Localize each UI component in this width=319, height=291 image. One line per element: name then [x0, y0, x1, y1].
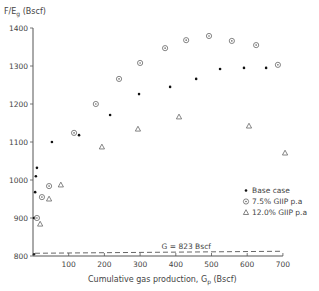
giip-12-point: [246, 123, 251, 128]
giip-7-5-point: [206, 33, 211, 38]
giip-7-5-point: [116, 76, 121, 81]
giip-12-point: [176, 114, 181, 119]
base-case-point: [265, 67, 268, 70]
y-tick-label: 900: [14, 214, 29, 223]
giip-12-point: [135, 126, 140, 131]
base-case-point: [36, 167, 39, 170]
base-case-point: [109, 114, 112, 117]
base-case-point: [243, 67, 246, 70]
giip-7-5-point: [93, 101, 98, 106]
giip-12-point: [99, 144, 104, 149]
giip-12-point: [46, 196, 51, 201]
x-tick-label: 100: [62, 260, 77, 269]
reference-line-label: G = 823 Bscf: [162, 242, 212, 251]
tick-labels: 8009001000110012001300140010020030040050…: [9, 24, 290, 269]
giip-7-5-point: [138, 60, 143, 65]
gas-material-balance-chart: 8009001000110012001300140010020030040050…: [0, 0, 319, 291]
giip-7-5-point: [184, 38, 189, 43]
giip-7-5-point: [46, 183, 51, 188]
x-tick-label: 400: [169, 260, 184, 269]
base-case-point: [35, 175, 38, 178]
giip-12-point: [282, 150, 287, 155]
giip-7-5-point: [254, 43, 259, 48]
y-tick-label: 1200: [9, 100, 28, 109]
giip-7-5-point: [243, 199, 248, 204]
giip-7-5-point: [71, 130, 76, 135]
base-case-point: [78, 134, 81, 137]
base-case-point: [169, 86, 172, 89]
y-tick-label: 1000: [9, 176, 28, 185]
base-case-point: [195, 78, 198, 81]
axes: [30, 28, 283, 256]
y-tick-label: 1100: [9, 138, 28, 147]
base-case-point: [34, 191, 37, 194]
giip-12-point: [58, 182, 63, 187]
y-tick-label: 1300: [9, 62, 28, 71]
x-tick-label: 200: [97, 260, 112, 269]
base-case-point: [219, 68, 222, 71]
data-points: [33, 33, 288, 226]
base-case-point: [245, 189, 248, 192]
x-axis-title: Cumulative gas production, Gp (Bscf): [88, 275, 237, 286]
y-tick-label: 1400: [9, 24, 28, 33]
legend-label: Base case: [252, 186, 290, 195]
y-axis-title: F/Eg (Bscf): [4, 7, 46, 18]
reference-line-G: G = 823 Bscf: [33, 242, 283, 255]
legend-label: 7.5% GIIP p.a: [252, 197, 302, 206]
giip-7-5-point: [39, 195, 44, 200]
legend-label: 12.0% GIIP p.a: [252, 208, 307, 217]
base-case-point: [51, 141, 54, 144]
legend: Base case7.5% GIIP p.a12.0% GIIP p.a: [243, 186, 307, 217]
giip-7-5-point: [229, 38, 234, 43]
x-tick-label: 700: [276, 260, 291, 269]
x-tick-label: 300: [133, 260, 148, 269]
x-tick-label: 500: [204, 260, 219, 269]
giip-7-5-point: [275, 62, 280, 67]
y-tick-label: 800: [14, 252, 29, 261]
giip-7-5-point: [162, 46, 167, 51]
base-case-point: [138, 93, 141, 96]
giip-12-point: [243, 210, 248, 215]
x-tick-label: 600: [240, 260, 255, 269]
giip-12-point: [38, 221, 43, 226]
